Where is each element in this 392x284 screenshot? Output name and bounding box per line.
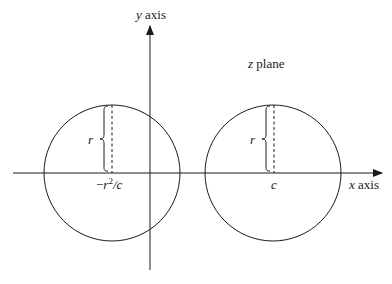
left-radius-brace [100,106,108,171]
diagram-canvas: y axis x axis z plane r r −r2/c c [0,0,392,284]
right-center-label: c [271,177,277,192]
right-radius-brace [262,106,270,171]
right-radius-label: r [250,132,256,147]
z-plane-label: z plane [247,56,285,71]
z-plane-diagram: y axis x axis z plane r r −r2/c c [0,0,392,284]
left-radius-label: r [88,132,94,147]
y-axis-label: y axis [134,7,166,22]
x-axis-label: x axis [348,177,379,192]
left-center-label: −r2/c [96,176,123,192]
